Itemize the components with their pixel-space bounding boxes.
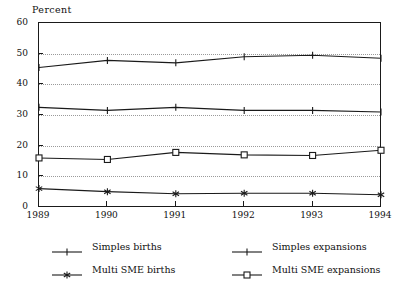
y-tick-label-40: 40 [4, 78, 28, 88]
y-tick-mark-60 [38, 22, 43, 23]
series-line-1 [39, 107, 381, 112]
legend-plus-marker-icon [52, 243, 82, 255]
series-2-point-5 [378, 147, 384, 153]
x-tick-label-1994: 1994 [360, 210, 400, 220]
gridline-20 [39, 146, 380, 147]
plot-area [38, 22, 381, 207]
series-2-point-3 [241, 152, 247, 158]
legend-item-label: Multi SME births [92, 264, 175, 275]
x-tick-label-1990: 1990 [86, 210, 126, 220]
y-tick-label-50: 50 [4, 48, 28, 58]
x-tick-mark-1993 [312, 201, 313, 206]
y-tick-label-20: 20 [4, 140, 28, 150]
legend-marker-square [244, 272, 250, 278]
legend-square-marker-icon [232, 266, 262, 278]
y-tick-mark-20 [38, 145, 43, 146]
legend-plus-marker-icon [232, 243, 262, 255]
x-tick-mark-1990 [106, 201, 107, 206]
legend-item-label: Simples expansions [272, 241, 367, 252]
y-tick-mark-10 [38, 175, 43, 176]
series-2-point-0 [36, 155, 42, 161]
x-tick-label-1992: 1992 [223, 210, 263, 220]
y-axis-title: Percent [32, 4, 72, 15]
series-2-point-4 [310, 152, 316, 158]
y-tick-mark-30 [38, 114, 43, 115]
x-tick-label-1989: 1989 [18, 210, 58, 220]
x-tick-mark-1992 [243, 201, 244, 206]
legend-star-marker-icon [52, 266, 82, 278]
series-line-0 [39, 55, 381, 67]
x-tick-label-1993: 1993 [292, 210, 332, 220]
x-tick-label-1991: 1991 [155, 210, 195, 220]
y-tick-label-10: 10 [4, 170, 28, 180]
chart-legend: Simples birthsMulti SME births Simples e… [0, 238, 416, 288]
x-tick-mark-1991 [175, 201, 176, 206]
series-2-point-1 [104, 156, 110, 162]
legend-item-label: Simples births [92, 241, 162, 252]
series-line-3 [39, 189, 381, 195]
gridline-10 [39, 176, 380, 177]
y-tick-mark-50 [38, 53, 43, 54]
gridline-30 [39, 115, 380, 116]
legend-item-label: Multi SME expansions [272, 264, 380, 275]
series-2-point-2 [173, 149, 179, 155]
y-tick-label-30: 30 [4, 109, 28, 119]
y-tick-mark-40 [38, 83, 43, 84]
gridline-40 [39, 84, 380, 85]
series-line-2 [39, 150, 381, 159]
y-tick-mark-0 [38, 206, 43, 207]
gridline-50 [39, 54, 380, 55]
y-tick-label-60: 60 [4, 17, 28, 27]
line-chart: Percent 0102030405060 198919901991199219… [0, 0, 416, 292]
